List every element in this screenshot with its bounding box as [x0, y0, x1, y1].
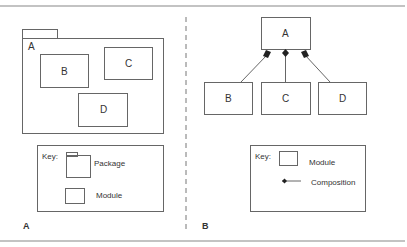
tree-root-label: A	[282, 29, 289, 39]
key-item-module: Module	[96, 192, 122, 200]
tree-child-label-d: D	[339, 94, 346, 104]
package-a	[23, 30, 164, 134]
panel-caption-a: A	[23, 222, 30, 231]
module-label-c: C	[125, 59, 132, 69]
tree-child-label-b: B	[225, 94, 232, 104]
module-label-b: B	[61, 67, 68, 77]
key-item-module: Module	[309, 159, 335, 167]
key-title-a: Key:	[42, 153, 58, 161]
composition-diamond-b	[263, 50, 271, 58]
package-label: A	[28, 42, 35, 52]
panel-caption-b: B	[202, 222, 209, 231]
module-label-d: D	[100, 105, 107, 115]
key-title-b: Key:	[255, 153, 271, 161]
tree-child-label-c: C	[282, 94, 289, 104]
module-icon	[66, 189, 85, 204]
composition-diamond-d	[301, 50, 309, 58]
key-item-package: Package	[94, 160, 125, 168]
diagram-canvas	[0, 0, 407, 247]
composition-diamond-c	[282, 49, 289, 57]
module-icon	[280, 152, 298, 166]
key-item-composition: Composition	[311, 179, 355, 187]
